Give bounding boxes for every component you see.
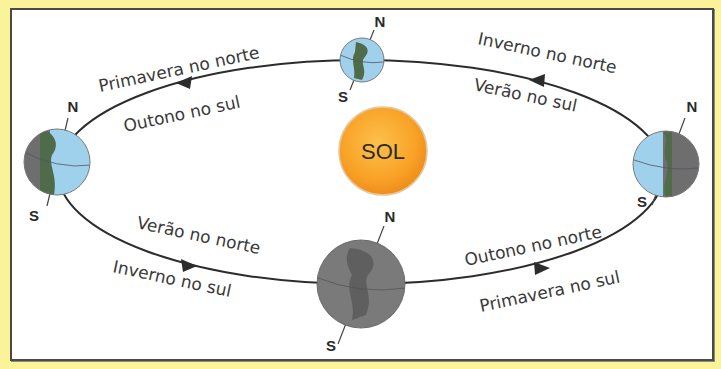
north-pole-label: N <box>385 208 396 225</box>
sun-label: SOL <box>361 139 405 164</box>
north-pole-label: N <box>68 98 79 115</box>
earth-right: N S <box>633 98 703 210</box>
earth-left: N S <box>20 98 92 224</box>
label-inverno-norte: Inverno no norte <box>476 28 619 77</box>
north-pole-label: N <box>375 13 386 30</box>
label-inverno-sul: Inverno no sul <box>111 256 233 301</box>
south-pole-label: S <box>338 88 348 105</box>
earth-top: N S <box>338 13 385 105</box>
label-verao-norte: Verão no norte <box>135 212 262 258</box>
earth-bottom: N S <box>317 208 405 354</box>
south-pole-label: S <box>637 193 647 210</box>
seasons-diagram: SOL N S N S N <box>0 0 721 369</box>
orbit-arrow-icon <box>534 262 550 275</box>
south-pole-label: S <box>326 337 336 354</box>
north-pole-label: N <box>687 98 698 115</box>
label-primavera-sul: Primavera no sul <box>478 267 622 316</box>
sun: SOL <box>339 107 427 195</box>
south-pole-label: S <box>29 207 39 224</box>
label-outono-sul: Outono no sul <box>122 92 242 136</box>
label-outono-norte: Outono no norte <box>463 221 604 270</box>
label-verao-sul: Verão no sul <box>472 74 579 115</box>
